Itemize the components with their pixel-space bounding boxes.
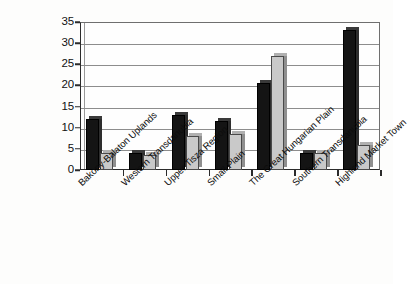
bar-series-2 [271, 56, 284, 170]
x-tick-mark [123, 170, 125, 176]
bar-series-1 [129, 153, 142, 170]
bar-front-face [215, 121, 228, 170]
x-tick-mark [294, 170, 296, 176]
bar-group [300, 22, 327, 170]
bar-front-face [314, 153, 327, 170]
bar-group [129, 22, 156, 170]
bar-front-face [143, 155, 156, 170]
x-tick-mark [380, 170, 382, 176]
bar-side-face [370, 142, 373, 167]
bar-side-face [284, 53, 287, 167]
bar-front-face [186, 136, 199, 170]
bar-front-face [343, 30, 356, 170]
y-tick-label: 20 [48, 80, 74, 92]
y-tick-label: 0 [48, 164, 74, 176]
bar-front-face [100, 153, 113, 170]
bar-series-1 [86, 119, 99, 170]
y-axis-labels: 0 5 10 15 20 25 30 35 [44, 22, 74, 170]
bar-front-face [129, 153, 142, 170]
bar-side-face [199, 133, 202, 167]
bar-front-face [229, 134, 242, 170]
bar-group [172, 22, 199, 170]
x-axis-tick-marks [80, 170, 380, 176]
bar-series-1 [343, 30, 356, 170]
bar-group [215, 22, 242, 170]
y-tick-label: 5 [48, 143, 74, 155]
x-tick-mark [209, 170, 211, 176]
bar-series-2 [143, 155, 156, 170]
bar-front-face [86, 119, 99, 170]
bar-series-2 [357, 145, 370, 170]
bar-series-2 [100, 153, 113, 170]
y-tick-label: 30 [48, 37, 74, 49]
bar-group [343, 22, 370, 170]
y-tick-label: 25 [48, 59, 74, 71]
bar-series-2 [229, 134, 242, 170]
x-tick-mark [251, 170, 253, 176]
y-tick-label: 10 [48, 122, 74, 134]
bar-series-2 [186, 136, 199, 170]
y-tick-label: 35 [48, 16, 74, 28]
bar-front-face [300, 153, 313, 170]
bar-front-face [257, 83, 270, 170]
bar-front-face [271, 56, 284, 170]
y-tick-label: 15 [48, 101, 74, 113]
x-tick-mark [166, 170, 168, 176]
bars-layer [80, 22, 380, 170]
bar-front-face [172, 115, 185, 170]
x-tick-mark [337, 170, 339, 176]
bar-group [86, 22, 113, 170]
bar-front-face [357, 145, 370, 170]
bar-series-1 [172, 115, 185, 170]
bar-group [257, 22, 284, 170]
bar-side-face [242, 131, 245, 167]
bar-series-1 [300, 153, 313, 170]
bar-series-1 [215, 121, 228, 170]
bar-series-2 [314, 153, 327, 170]
bar-series-1 [257, 83, 270, 170]
